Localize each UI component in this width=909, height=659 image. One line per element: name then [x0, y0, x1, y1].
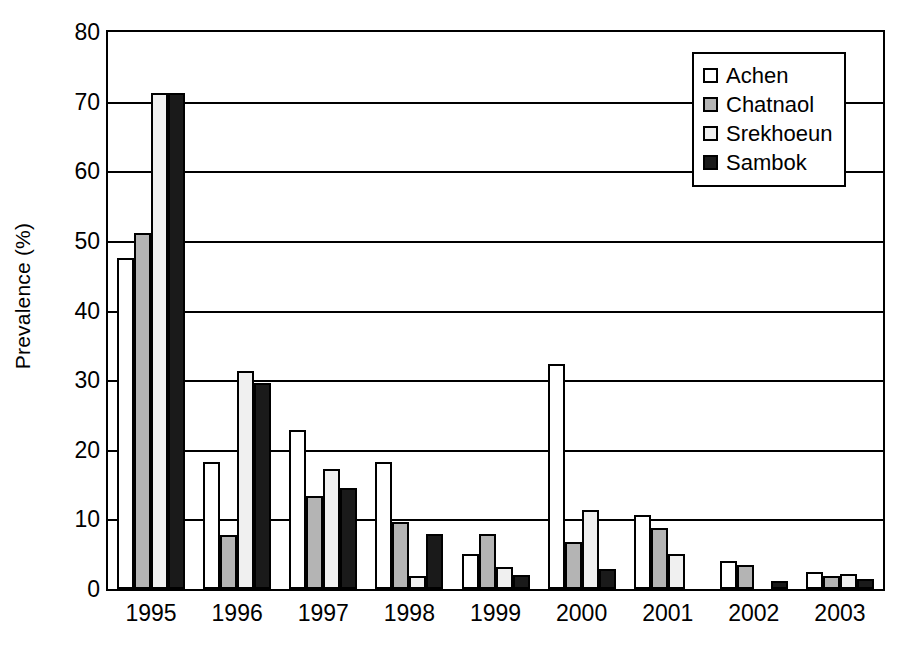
bar-achen-1999[interactable]	[462, 554, 479, 589]
y-tick-label-70: 70	[36, 90, 100, 113]
bar-chatnaol-1998[interactable]	[392, 522, 409, 589]
y-tick-label-60: 60	[36, 160, 100, 183]
chart-legend: AchenChatnaolSrekhoeunSambok	[692, 52, 846, 187]
bar-achen-1996[interactable]	[203, 462, 220, 589]
x-tick-label-2002: 2002	[728, 600, 779, 627]
prevalence-bar-chart: Prevalence (%) 01020304050607080 1995199…	[0, 0, 909, 659]
bar-sambok-2002[interactable]	[771, 581, 788, 589]
legend-label: Chatnaol	[726, 94, 814, 116]
bar-sambok-1997[interactable]	[340, 488, 357, 589]
legend-item-chatnaol[interactable]: Chatnaol	[703, 90, 832, 119]
y-axis-tick-labels: 01020304050607080	[26, 0, 100, 659]
y-tick-label-80: 80	[36, 21, 100, 44]
legend-label: Sambok	[726, 152, 807, 174]
x-tick-label-2000: 2000	[556, 600, 607, 627]
y-tick-label-40: 40	[36, 299, 100, 322]
y-tick-label-0: 0	[36, 578, 100, 601]
bar-chatnaol-2003[interactable]	[823, 576, 840, 589]
bar-srekhoeun-1997[interactable]	[323, 469, 340, 589]
bar-sambok-1996[interactable]	[254, 383, 271, 589]
bar-srekhoeun-1995[interactable]	[151, 93, 168, 589]
x-tick-label-1995: 1995	[125, 600, 176, 627]
x-tick-label-1998: 1998	[384, 600, 435, 627]
bar-group-1998	[375, 32, 443, 589]
bar-chatnaol-1996[interactable]	[220, 535, 237, 589]
bar-srekhoeun-1996[interactable]	[237, 371, 254, 589]
x-axis-tick-labels: 199519961997199819992000200120022003	[106, 600, 885, 640]
bar-sambok-1998[interactable]	[426, 534, 443, 589]
bar-srekhoeun-2001[interactable]	[668, 554, 685, 589]
bar-chatnaol-2001[interactable]	[651, 528, 668, 589]
legend-label: Achen	[726, 65, 788, 87]
bar-group-1996	[203, 32, 271, 589]
legend-label: Srekhoeun	[726, 123, 832, 145]
legend-swatch-icon-chatnaol	[703, 97, 718, 112]
bar-sambok-1999[interactable]	[513, 575, 530, 589]
bar-srekhoeun-2000[interactable]	[582, 510, 599, 589]
bar-achen-2001[interactable]	[634, 515, 651, 589]
x-tick-label-1996: 1996	[212, 600, 263, 627]
x-tick-label-2003: 2003	[814, 600, 865, 627]
x-tick-label-1997: 1997	[298, 600, 349, 627]
bar-chatnaol-1995[interactable]	[134, 233, 151, 589]
bar-group-1997	[289, 32, 357, 589]
bar-chatnaol-2000[interactable]	[565, 542, 582, 589]
bar-achen-2003[interactable]	[806, 572, 823, 589]
legend-swatch-icon-sambok	[703, 155, 718, 170]
bar-group-2000	[548, 32, 616, 589]
bar-sambok-2000[interactable]	[599, 569, 616, 589]
bar-chatnaol-2002[interactable]	[737, 565, 754, 589]
y-tick-label-50: 50	[36, 229, 100, 252]
bar-sambok-2003[interactable]	[857, 579, 874, 589]
y-tick-label-20: 20	[36, 438, 100, 461]
bar-achen-1995[interactable]	[117, 258, 134, 589]
bar-group-1995	[117, 32, 185, 589]
bar-chatnaol-1999[interactable]	[479, 534, 496, 589]
x-tick-label-2001: 2001	[642, 600, 693, 627]
bar-srekhoeun-1999[interactable]	[496, 567, 513, 589]
legend-item-achen[interactable]: Achen	[703, 61, 832, 90]
legend-swatch-icon-srekhoeun	[703, 126, 718, 141]
y-tick-label-10: 10	[36, 508, 100, 531]
legend-swatch-icon-achen	[703, 68, 718, 83]
legend-item-sambok[interactable]: Sambok	[703, 148, 832, 177]
bar-achen-1997[interactable]	[289, 430, 306, 589]
y-tick-label-30: 30	[36, 369, 100, 392]
legend-item-srekhoeun[interactable]: Srekhoeun	[703, 119, 832, 148]
bar-achen-1998[interactable]	[375, 462, 392, 589]
x-tick-label-1999: 1999	[470, 600, 521, 627]
bar-achen-2002[interactable]	[720, 561, 737, 589]
bar-group-1999	[462, 32, 530, 589]
bar-srekhoeun-1998[interactable]	[409, 576, 426, 589]
bar-sambok-1995[interactable]	[168, 93, 185, 589]
bar-srekhoeun-2003[interactable]	[840, 574, 857, 589]
bar-chatnaol-1997[interactable]	[306, 496, 323, 589]
bar-achen-2000[interactable]	[548, 364, 565, 589]
